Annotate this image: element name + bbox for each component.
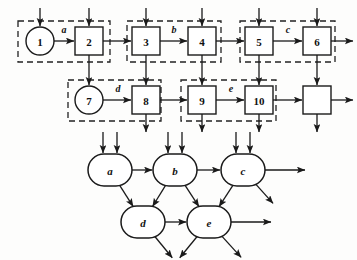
graph-node-text-a: a [107,165,113,177]
graph-outgoing-diag-c [255,183,273,203]
graph-node-text-e: e [207,217,212,229]
node-text-10: 10 [254,95,266,107]
node-text-8: 8 [143,95,149,107]
graph-edge-a-to-d [119,185,133,207]
graph-node-text-b: b [172,165,178,177]
node-text-4: 4 [199,36,205,48]
node-text-1: 1 [37,36,43,48]
node-text-9: 9 [199,95,205,107]
node-text-6: 6 [314,36,320,48]
graph-outgoing-diag-e-left [180,236,198,258]
node-text-3: 3 [143,36,149,48]
graph-edge-b-to-e [184,184,199,206]
edge-text-a: a [62,24,67,35]
graph-node-text-d: d [140,217,146,229]
graph-edge-c-to-e [219,184,234,206]
edge-text-d: d [116,83,122,94]
graph-outgoing-diag-e-right [221,235,241,257]
graph-edge-b-to-d [153,185,166,207]
node-text-2: 2 [86,36,92,48]
dashed-group-layer [18,21,335,121]
edge-text-e: e [229,83,234,94]
edge-text-b: b [172,24,177,35]
place-node-unlabeled[interactable] [303,86,331,114]
node-text-7: 7 [86,95,92,107]
graph-outgoing-diag-d [154,236,172,258]
diagram-svg: 12345678910abcdeabcde [0,0,357,260]
node-text-5: 5 [256,36,262,48]
graph-node-text-c: c [241,165,246,177]
node-layer [26,27,331,238]
edge-text-c: c [286,24,291,35]
figure-canvas: 12345678910abcdeabcde 1 2 3 4 5 6 7 8 9 … [0,0,357,260]
